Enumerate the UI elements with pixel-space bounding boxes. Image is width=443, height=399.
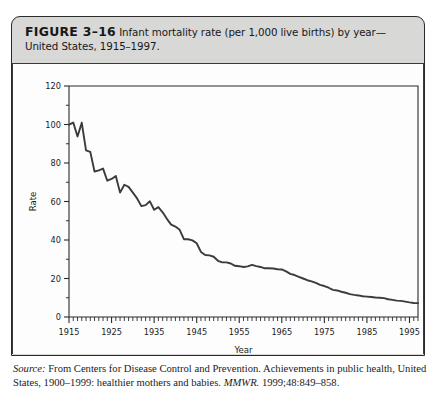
figure-caption: FIGURE 3–16 Infant mortality rate (per 1… xyxy=(11,16,425,59)
x-tick-label: 1965 xyxy=(271,327,292,337)
source-journal: MMWR. xyxy=(224,377,260,388)
source-label: Source: xyxy=(13,363,46,374)
y-tick-label: 60 xyxy=(51,197,61,207)
y-tick-label: 80 xyxy=(51,158,61,168)
figure-page: FIGURE 3–16 Infant mortality rate (per 1… xyxy=(0,0,443,399)
x-tick-label: 1985 xyxy=(357,327,378,337)
infant-mortality-line-chart: 0204060801001201915192519351945195519651… xyxy=(13,64,425,355)
chart-container: 0204060801001201915192519351945195519651… xyxy=(12,63,424,354)
x-tick-label: 1935 xyxy=(144,327,165,337)
x-tick-label: 1945 xyxy=(186,327,207,337)
source-text: From Centers for Disease Control and Pre… xyxy=(13,363,426,388)
y-tick-label: 120 xyxy=(45,81,61,91)
y-axis-title: Rate xyxy=(28,192,38,212)
y-tick-label: 100 xyxy=(45,120,61,130)
axis-lines xyxy=(69,86,418,317)
y-tick-label: 0 xyxy=(56,312,61,322)
figure-number: FIGURE 3–16 xyxy=(25,24,116,39)
x-tick-label: 1925 xyxy=(101,327,122,337)
y-tick-label: 20 xyxy=(51,274,61,284)
x-tick-label: 1975 xyxy=(314,327,335,337)
x-tick-label: 1955 xyxy=(229,327,250,337)
y-tick-label: 40 xyxy=(51,235,61,245)
x-axis-title: Year xyxy=(233,345,253,355)
plot-frame xyxy=(69,86,418,317)
source-citation: 1999;48:849–858. xyxy=(259,377,339,388)
source-note: Source: From Centers for Disease Control… xyxy=(13,362,433,389)
x-tick-label: 1915 xyxy=(59,327,80,337)
x-tick-label: 1995 xyxy=(399,327,420,337)
data-line-infant-mortality xyxy=(69,123,418,304)
